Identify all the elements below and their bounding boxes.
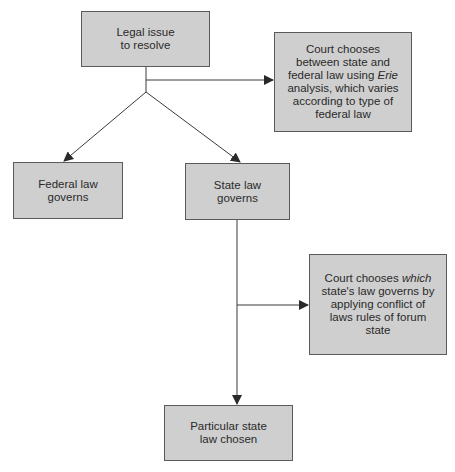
node-conflict-of-laws: Court chooses which state's law governs … — [309, 254, 447, 355]
node-legal-issue: Legal issue to resolve — [81, 11, 210, 67]
node-particular-state-line2: law chosen — [200, 433, 258, 445]
node-legal-issue-line1: Legal issue — [116, 26, 174, 38]
erie-text-italic: Erie — [378, 69, 398, 81]
conflict-text-post: state's law governs by applying conflict… — [322, 285, 435, 336]
node-particular-state-line1: Particular state — [190, 420, 267, 432]
erie-text-post: analysis, which varies according to type… — [287, 82, 398, 120]
erie-text-pre: Court chooses between state and federal … — [288, 43, 390, 81]
node-federal-law-line1: Federal law — [38, 178, 97, 190]
node-state-law: State law governs — [185, 163, 290, 220]
edge-legal-issue-to-federal — [64, 92, 146, 161]
node-federal-law: Federal law governs — [13, 162, 123, 219]
node-state-law-line1: State law — [214, 179, 261, 191]
node-erie-analysis-text: Court chooses between state and federal … — [285, 43, 401, 121]
node-federal-law-line2: governs — [48, 191, 89, 203]
node-conflict-of-laws-text: Court chooses which state's law governs … — [318, 272, 438, 337]
conflict-text-pre: Court chooses — [325, 272, 402, 284]
edge-legal-issue-to-state — [146, 92, 240, 162]
node-state-law-line2: governs — [217, 192, 258, 204]
node-particular-state: Particular state law chosen — [164, 405, 293, 461]
node-legal-issue-line2: to resolve — [121, 39, 171, 51]
conflict-text-italic: which — [402, 272, 431, 284]
node-erie-analysis: Court chooses between state and federal … — [274, 32, 412, 132]
